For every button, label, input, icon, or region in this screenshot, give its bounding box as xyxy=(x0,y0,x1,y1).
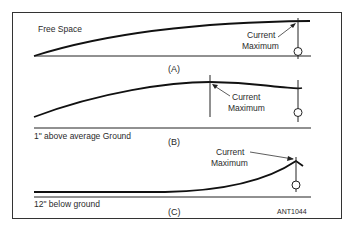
panel-c-annotation-arrow xyxy=(250,152,293,159)
panel-a-annotation-line2: Maximum xyxy=(242,41,279,51)
panel-a-annotation-line1: Current xyxy=(247,30,276,40)
panel-c: Current Maximum 12" below ground (C) ANT… xyxy=(34,147,311,217)
panel-b-annotation-line1: Current xyxy=(232,92,261,102)
panel-b: Current Maximum 1" above average Ground … xyxy=(34,75,311,147)
panel-b-arrowhead-icon xyxy=(212,84,218,89)
figure-id-label: ANT1044 xyxy=(277,208,307,215)
panel-a-caption: (A) xyxy=(168,64,180,74)
panel-a-source-icon xyxy=(294,48,302,56)
panel-b-condition-label: 1" above average Ground xyxy=(34,131,131,141)
panel-b-caption: (B) xyxy=(168,137,180,147)
panel-c-caption: (C) xyxy=(168,207,181,217)
panel-c-current-curve xyxy=(34,161,303,192)
panel-c-arrowhead-icon xyxy=(287,156,294,161)
panel-c-source-icon xyxy=(292,181,300,189)
panel-a: Free Space Current Maximum (A) xyxy=(34,18,311,74)
figure-frame xyxy=(13,13,342,219)
panel-b-annotation-line2: Maximum xyxy=(228,103,265,113)
panel-c-annotation-line2: Maximum xyxy=(211,158,248,168)
antenna-current-distribution-diagram: Free Space Current Maximum (A) Current M… xyxy=(0,0,348,228)
panel-a-condition-label: Free Space xyxy=(38,24,82,34)
panel-c-condition-label: 12" below ground xyxy=(34,199,100,209)
panel-c-annotation-line1: Current xyxy=(216,147,245,157)
panel-b-source-icon xyxy=(294,109,302,117)
